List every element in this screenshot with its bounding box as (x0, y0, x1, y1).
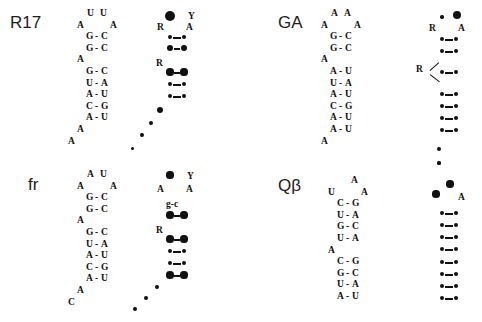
nucleotide-dot (440, 104, 444, 108)
base-letter: - (346, 198, 349, 210)
base-letter: U (101, 89, 108, 101)
base-letter: G (101, 262, 108, 274)
base-letter: G (337, 221, 344, 233)
base-letter: A (77, 181, 84, 193)
nucleotide-dot (440, 260, 444, 264)
base-letter: U (345, 89, 352, 101)
pair-link (174, 48, 180, 50)
nucleotide-dot (454, 128, 458, 132)
base-letter: C (352, 221, 359, 233)
nucleotide-dot (454, 296, 458, 300)
nucleotide-dot (454, 37, 458, 41)
base-letter: G (86, 43, 93, 55)
base-letter: U (337, 233, 344, 245)
base-letter: - (95, 239, 98, 251)
pair-link (445, 274, 453, 276)
base-letter: U (100, 169, 107, 181)
pair-link (173, 96, 181, 98)
base-letter: C (101, 31, 108, 43)
dot-label: A (157, 184, 164, 194)
base-letter: A (352, 210, 359, 222)
base-letter: - (95, 262, 98, 274)
base-letter: G (337, 268, 344, 280)
nucleotide-dot (144, 296, 148, 300)
pair-link (445, 39, 453, 41)
base-letter: C (337, 198, 344, 210)
base-letter: A (354, 20, 361, 32)
base-letter: G (86, 227, 93, 239)
pair-link (173, 263, 181, 265)
nucleotide-dot (157, 107, 164, 114)
base-letter: C (101, 66, 108, 78)
nucleotide-dot (133, 307, 137, 311)
base-letter: G (345, 101, 352, 113)
base-letter: G (101, 101, 108, 113)
base-letter: U (86, 78, 93, 90)
base-letter: A (345, 78, 352, 90)
base-letter: A (331, 8, 338, 20)
nucleotide-dot (168, 35, 172, 39)
pair-link (445, 106, 453, 108)
dot-label: A (458, 23, 465, 33)
base-letter: A (110, 20, 117, 32)
nucleotide-dot (440, 92, 444, 96)
nucleotide-dot (182, 261, 186, 265)
pointer-line (430, 74, 440, 82)
nucleotide-dot (182, 249, 186, 253)
pair-link (445, 298, 453, 300)
dot-label: R (429, 23, 436, 33)
pair-link (445, 262, 453, 264)
nucleotide-dot (168, 94, 172, 98)
base-letter: A (330, 124, 337, 136)
dot-letter-pair: g-c (166, 199, 178, 209)
nucleotide-dot (454, 247, 458, 251)
base-letter: A (101, 78, 108, 90)
base-letter: G (86, 204, 93, 216)
base-letter: G (352, 256, 359, 268)
base-letter: U (330, 78, 337, 90)
base-letter: - (339, 31, 342, 43)
nucleotide-dot (440, 247, 444, 251)
pair-link (173, 84, 181, 86)
base-letter: A (330, 66, 337, 78)
base-letter: - (339, 124, 342, 136)
base-letter: A (77, 215, 84, 227)
base-letter: - (346, 256, 349, 268)
base-letter: U (352, 291, 359, 303)
nucleotide-dot (454, 116, 458, 120)
nucleotide-dot (440, 15, 444, 19)
dot-label: R (157, 22, 164, 32)
nucleotide-dot (165, 11, 176, 22)
pair-link (445, 213, 453, 215)
panel-label-ga: GA (278, 13, 303, 33)
base-letter: A (77, 20, 84, 32)
base-letter: A (352, 279, 359, 291)
nucleotide-dot (149, 121, 153, 125)
nucleotide-dot (182, 94, 186, 98)
nucleotide-dot (454, 223, 458, 227)
pair-link (173, 251, 181, 253)
base-letter: - (339, 78, 342, 90)
base-letter: G (330, 31, 337, 43)
base-letter: - (95, 43, 98, 55)
pair-link (445, 72, 453, 74)
base-letter: G (86, 31, 93, 43)
base-letter: U (328, 187, 335, 199)
base-letter: A (86, 273, 93, 285)
nucleotide-dot (454, 92, 458, 96)
base-letter: C (101, 192, 108, 204)
base-letter: - (95, 204, 98, 216)
pair-link (445, 51, 453, 53)
base-letter: A (361, 187, 368, 199)
nucleotide-dot (181, 45, 188, 52)
base-letter: A (330, 112, 337, 124)
base-letter: A (328, 245, 335, 257)
base-letter: G (86, 192, 93, 204)
nucleotide-dot (454, 272, 458, 276)
base-letter: A (330, 89, 337, 101)
nucleotide-dot (437, 147, 441, 151)
nucleotide-dot (440, 116, 444, 120)
panel-label-r17: R17 (10, 13, 41, 33)
base-letter: U (337, 210, 344, 222)
base-letter: - (339, 43, 342, 55)
